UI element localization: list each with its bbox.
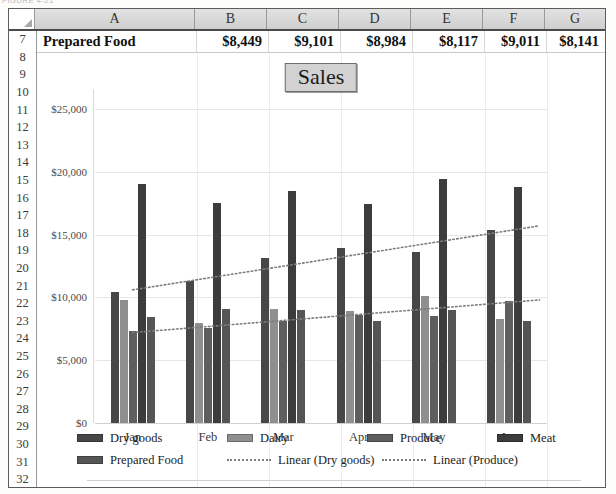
legend-label: Dairy	[260, 431, 288, 446]
row-header-29[interactable]: 29	[9, 418, 36, 436]
bar-dry-goods[interactable]	[337, 248, 345, 423]
bar-prepared-food[interactable]	[147, 317, 155, 423]
bar-meat[interactable]	[514, 187, 522, 423]
row-header-26[interactable]: 26	[9, 365, 36, 383]
column-header-d[interactable]: D	[339, 9, 411, 29]
cell-c7[interactable]: $9,101	[269, 31, 341, 52]
legend-label: Prepared Food	[110, 453, 183, 468]
bar-meat[interactable]	[364, 204, 372, 423]
row-header-17[interactable]: 17	[9, 207, 36, 225]
row-header-20[interactable]: 20	[9, 260, 36, 278]
row-header-13[interactable]: 13	[9, 137, 36, 155]
bar-produce[interactable]	[430, 316, 438, 423]
column-header-row: ABCDEFG	[9, 9, 605, 31]
bar-produce[interactable]	[355, 315, 363, 423]
legend-item-linear-dry-goods-[interactable]: Linear (Dry goods)	[227, 453, 375, 468]
row-header-9[interactable]: 9	[9, 66, 36, 84]
column-header-g[interactable]: G	[545, 9, 605, 29]
bar-produce[interactable]	[129, 331, 137, 423]
cell-e7[interactable]: $8,117	[413, 31, 485, 52]
bar-produce[interactable]	[279, 321, 287, 423]
bar-prepared-food[interactable]	[222, 309, 230, 423]
bar-meat[interactable]	[439, 179, 447, 423]
legend-item-linear-produce-[interactable]: Linear (Produce)	[382, 453, 518, 468]
legend-item-dry-goods[interactable]: Dry goods	[77, 431, 162, 446]
row-header-28[interactable]: 28	[9, 400, 36, 418]
bar-dry-goods[interactable]	[261, 258, 269, 423]
bar-dairy[interactable]	[120, 300, 128, 423]
column-header-c[interactable]: C	[267, 9, 339, 29]
column-header-f[interactable]: F	[483, 9, 545, 29]
row-header-30[interactable]: 30	[9, 436, 36, 454]
spreadsheet-frame: ABCDEFG 78910111213141516171819202122232…	[8, 8, 606, 488]
row-header-10[interactable]: 10	[9, 84, 36, 102]
bar-prepared-food[interactable]	[448, 310, 456, 423]
bar-prepared-food[interactable]	[297, 310, 305, 423]
cell-a7[interactable]: Prepared Food	[37, 31, 197, 52]
row-header-31[interactable]: 31	[9, 453, 36, 471]
bar-dry-goods[interactable]	[111, 292, 119, 423]
bar-group: Jun	[472, 109, 547, 423]
legend-item-dairy[interactable]: Dairy	[227, 431, 288, 446]
bar-prepared-food[interactable]	[373, 321, 381, 423]
bar-group: Mar	[246, 109, 321, 423]
bar-meat[interactable]	[213, 203, 221, 423]
row-header-27[interactable]: 27	[9, 383, 36, 401]
legend-label: Produce	[400, 431, 441, 446]
bar-dairy[interactable]	[496, 319, 504, 423]
row-header-14[interactable]: 14	[9, 154, 36, 172]
row-header-25[interactable]: 25	[9, 348, 36, 366]
select-all-corner[interactable]	[9, 9, 35, 29]
row-header-7[interactable]: 7	[9, 31, 36, 49]
bar-prepared-food[interactable]	[523, 321, 531, 423]
cell-f7[interactable]: $9,011	[485, 31, 547, 52]
row-header-15[interactable]: 15	[9, 172, 36, 190]
y-axis-tick-label: $20,000	[51, 166, 87, 178]
cell-d7[interactable]: $8,984	[341, 31, 413, 52]
row-header-8[interactable]: 8	[9, 49, 36, 67]
row-header-32[interactable]: 32	[9, 471, 36, 489]
row-header-21[interactable]: 21	[9, 277, 36, 295]
chart-legend: Dry goodsDairyProduceMeat Prepared FoodL…	[77, 427, 591, 475]
legend-swatch-icon	[227, 434, 253, 442]
column-header-b[interactable]: B	[195, 9, 267, 29]
row-header-16[interactable]: 16	[9, 189, 36, 207]
bar-group: Apr	[321, 109, 396, 423]
bar-dairy[interactable]	[270, 309, 278, 423]
table-row[interactable]: Prepared Food $8,449 $9,101 $8,984 $8,11…	[37, 31, 605, 53]
column-header-a[interactable]: A	[35, 9, 195, 29]
figure-caption-fragment: FIGURE 4-21	[2, 0, 54, 4]
legend-label: Meat	[530, 431, 556, 446]
y-axis-line	[93, 89, 94, 423]
row-number-gutter: 7891011121314151617181920212223242526272…	[9, 31, 37, 487]
legend-swatch-icon	[77, 456, 103, 464]
bar-dairy[interactable]	[195, 323, 203, 423]
cell-b7[interactable]: $8,449	[197, 31, 269, 52]
bar-dry-goods[interactable]	[186, 281, 194, 423]
row-header-12[interactable]: 12	[9, 119, 36, 137]
legend-item-produce[interactable]: Produce	[367, 431, 441, 446]
embedded-chart[interactable]: Sales $0$5,000$10,000$15,000$20,000$25,0…	[37, 53, 605, 487]
row-header-18[interactable]: 18	[9, 225, 36, 243]
row-header-23[interactable]: 23	[9, 313, 36, 331]
chart-title[interactable]: Sales	[285, 63, 357, 92]
cell-g7[interactable]: $8,141	[547, 31, 605, 52]
legend-item-meat[interactable]: Meat	[497, 431, 556, 446]
legend-swatch-icon	[367, 434, 393, 442]
legend-swatch-icon	[497, 434, 523, 442]
chart-plot-area: $0$5,000$10,000$15,000$20,000$25,000JanF…	[95, 109, 547, 423]
row-header-19[interactable]: 19	[9, 242, 36, 260]
bar-dry-goods[interactable]	[487, 230, 495, 423]
legend-item-prepared-food[interactable]: Prepared Food	[77, 453, 183, 468]
bar-produce[interactable]	[505, 301, 513, 423]
bar-produce[interactable]	[204, 328, 212, 423]
bar-dairy[interactable]	[421, 296, 429, 423]
bar-meat[interactable]	[138, 184, 146, 423]
bar-dairy[interactable]	[346, 311, 354, 423]
bar-dry-goods[interactable]	[412, 252, 420, 423]
row-header-11[interactable]: 11	[9, 101, 36, 119]
row-header-22[interactable]: 22	[9, 295, 36, 313]
row-header-24[interactable]: 24	[9, 330, 36, 348]
bar-meat[interactable]	[288, 191, 296, 423]
column-header-e[interactable]: E	[411, 9, 483, 29]
